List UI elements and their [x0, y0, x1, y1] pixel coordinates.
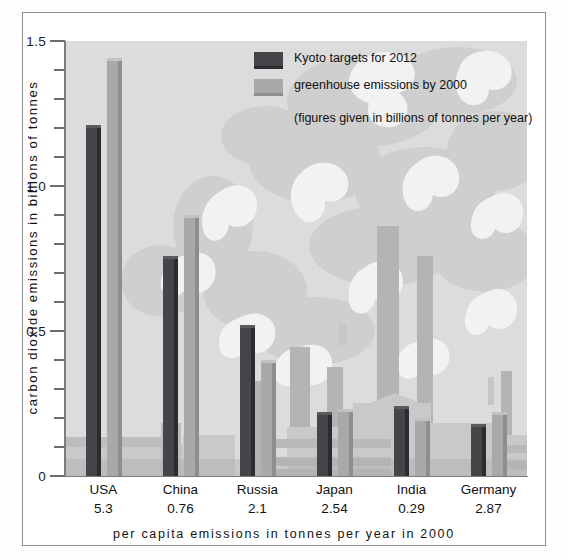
bar-top-highlight [240, 325, 255, 328]
y-tick-minor [54, 446, 65, 448]
bar-top-highlight [415, 418, 430, 421]
bar-side-shade [349, 409, 353, 476]
bar-side-shade [482, 424, 486, 476]
chart-page: 00.51.01.5 carbon dioxide emissions in b… [0, 0, 568, 560]
y-axis-line [64, 41, 66, 477]
legend-label-kyoto: Kyoto targets for 2012 [294, 51, 417, 65]
bar-usa-emissions-2000 [107, 58, 122, 476]
y-tick-minor [54, 272, 65, 274]
legend-note: (figures given in billions of tonnes per… [294, 111, 532, 125]
bar-india-kyoto-target [394, 406, 409, 476]
y-tick-minor [54, 156, 65, 158]
legend-swatch-greenhouse [254, 79, 283, 96]
y-tick-major [50, 40, 65, 42]
bar-top-highlight [261, 360, 276, 363]
x-axis-percapita-value: 2.87 [444, 499, 534, 518]
bar-top-highlight [492, 412, 507, 415]
bar-side-shade [118, 58, 122, 476]
plot-area [65, 41, 527, 476]
y-tick-minor [54, 359, 65, 361]
x-axis-group-germany: Germany2.87 [444, 480, 534, 518]
y-tick-minor [54, 98, 65, 100]
x-axis-title: per capita emissions in tonnes per year … [22, 527, 546, 541]
bar-top-highlight [471, 424, 486, 427]
bar-side-shade [195, 215, 199, 476]
y-tick-minor [54, 243, 65, 245]
bar-side-shade [426, 418, 430, 476]
bar-germany-kyoto-target [471, 424, 486, 476]
y-axis-title: carbon dioxide emissions in billions of … [25, 48, 40, 448]
bar-side-shade [174, 256, 178, 476]
x-axis-country-label: Germany [444, 480, 534, 499]
y-tick-minor [54, 388, 65, 390]
bar-side-shade [251, 325, 255, 476]
bar-china-emissions-2000 [184, 215, 199, 476]
bar-russia-emissions-2000 [261, 360, 276, 476]
y-tick-label: 0 [38, 469, 46, 484]
bar-side-shade [97, 125, 101, 476]
y-tick-minor [54, 417, 65, 419]
y-tick-minor [54, 214, 65, 216]
y-tick-minor [54, 127, 65, 129]
x-axis-labels: USA5.3China0.76Russia2.1Japan2.54India0.… [65, 480, 527, 526]
y-tick-label: 1.5 [26, 34, 46, 49]
bar-side-shade [328, 412, 332, 476]
bar-japan-emissions-2000 [338, 409, 353, 476]
legend-label-greenhouse: greenhouse emissions by 2000 [294, 78, 467, 92]
bar-top-highlight [163, 256, 178, 259]
bar-top-highlight [107, 58, 122, 61]
bar-top-highlight [184, 215, 199, 218]
y-tick-major [50, 475, 65, 477]
bar-germany-emissions-2000 [492, 412, 507, 476]
legend-swatch-kyoto [254, 52, 283, 69]
factory-background-illustration [65, 41, 527, 476]
bar-russia-kyoto-target [240, 325, 255, 476]
bar-top-highlight [86, 125, 101, 128]
bar-china-kyoto-target [163, 256, 178, 476]
bar-top-highlight [394, 406, 409, 409]
y-tick-major [50, 185, 65, 187]
y-tick-major [50, 330, 65, 332]
bar-japan-kyoto-target [317, 412, 332, 476]
bar-india-emissions-2000 [415, 418, 430, 476]
bar-top-highlight [317, 412, 332, 415]
bar-side-shade [272, 360, 276, 476]
bar-top-highlight [338, 409, 353, 412]
y-tick-minor [54, 69, 65, 71]
bar-side-shade [405, 406, 409, 476]
bar-usa-kyoto-target [86, 125, 101, 476]
x-axis-line [64, 476, 528, 478]
y-tick-minor [54, 301, 65, 303]
bar-side-shade [503, 412, 507, 476]
